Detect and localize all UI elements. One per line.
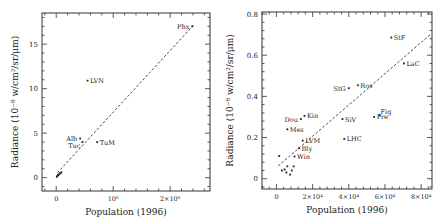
data-point xyxy=(289,174,291,176)
data-point xyxy=(294,156,296,158)
point-label-stg: StG xyxy=(334,85,346,93)
point-label-phx: Phx xyxy=(177,23,190,31)
point-label-siv: SiV xyxy=(345,116,357,124)
data-point xyxy=(357,84,359,86)
data-point xyxy=(284,169,286,171)
y-tick-label: 0.2 xyxy=(247,134,258,142)
y-axis-label: Radiance (10⁻⁸ w/cm²/sr/μm) xyxy=(10,36,20,168)
y-tick-label: 0.4 xyxy=(247,93,259,101)
x-axis-label: Population (1996) xyxy=(306,205,387,215)
x-tick-label: 8×10⁴ xyxy=(411,193,432,201)
y-tick-label: 10 xyxy=(29,85,38,93)
data-point xyxy=(286,172,288,174)
chart-left-population-vs-radiance: 010⁶2×10⁶051015Population (1996)Radiance… xyxy=(0,0,223,224)
data-point xyxy=(281,170,283,172)
point-label-bly: Bly xyxy=(302,145,313,153)
fit-line-dashed xyxy=(57,25,194,173)
point-label-kin: Kin xyxy=(307,112,318,120)
data-point xyxy=(291,170,293,172)
data-point xyxy=(82,141,84,143)
data-point xyxy=(348,87,350,89)
point-label-ros: Ros xyxy=(360,82,372,90)
point-label-lac: LaC xyxy=(406,60,419,68)
y-tick-label: 0 xyxy=(34,174,38,182)
data-point xyxy=(79,138,81,140)
plot-right: 02×10⁴4×10⁴6×10⁴8×10⁴00.20.40.60.8Popula… xyxy=(223,0,446,224)
x-tick-label: 0 xyxy=(54,195,58,203)
data-point xyxy=(390,37,392,39)
point-label-lvn: LVN xyxy=(90,77,104,85)
point-label-tuc: Tuc xyxy=(68,142,81,150)
chart-right-population-vs-radiance-zoomed: 02×10⁴4×10⁴6×10⁴8×10⁴00.20.40.60.8Popula… xyxy=(223,0,446,224)
y-tick-label: 0.6 xyxy=(247,52,259,60)
x-tick-label: 6×10⁴ xyxy=(375,193,396,201)
data-point xyxy=(343,138,345,140)
point-label-pre: Pre xyxy=(377,113,388,121)
point-label-dou: Dou xyxy=(285,116,298,124)
data-point xyxy=(300,118,302,120)
y-tick-label: 0.8 xyxy=(247,11,258,19)
data-point xyxy=(286,128,288,130)
data-point xyxy=(298,147,300,149)
x-axis-label: Population (1996) xyxy=(85,207,166,217)
point-label-stf: StF xyxy=(394,34,406,42)
data-point xyxy=(60,171,62,173)
x-tick-label: 0 xyxy=(274,193,278,201)
plot-left: 010⁶2×10⁶051015Population (1996)Radiance… xyxy=(0,0,223,224)
data-point xyxy=(302,140,304,142)
data-point xyxy=(87,80,89,82)
point-label-lhc: LHC xyxy=(347,135,362,143)
plot-frame xyxy=(42,13,210,191)
y-axis-label: Radiance (10⁻⁸ w/cm²/sr/μm) xyxy=(225,34,235,166)
data-point xyxy=(304,115,306,117)
data-point xyxy=(293,165,295,167)
data-point xyxy=(286,165,288,167)
point-label-tum: TuM xyxy=(100,139,116,147)
x-tick-label: 2×10⁴ xyxy=(302,193,323,201)
point-label-mes: Mes xyxy=(290,126,304,134)
data-point xyxy=(342,118,344,120)
y-tick-label: 0 xyxy=(254,175,258,183)
data-point xyxy=(373,116,375,118)
x-tick-label: 4×10⁴ xyxy=(339,193,360,201)
point-label-win: Win xyxy=(297,153,310,161)
x-tick-label: 2×10⁶ xyxy=(160,195,181,203)
data-point xyxy=(191,25,193,27)
y-tick-label: 5 xyxy=(34,130,38,138)
y-tick-label: 15 xyxy=(29,41,38,49)
data-point xyxy=(403,63,405,65)
x-tick-label: 10⁶ xyxy=(108,195,119,203)
data-point xyxy=(278,155,280,157)
data-point xyxy=(96,141,98,143)
plot-frame xyxy=(262,12,432,189)
